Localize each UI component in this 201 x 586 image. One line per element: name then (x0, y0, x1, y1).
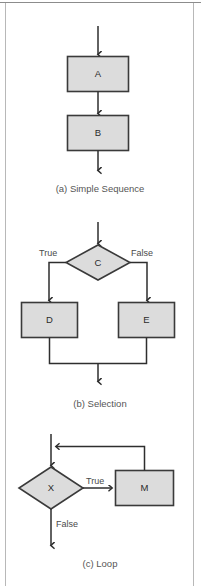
node-e-label: E (143, 314, 149, 325)
edge-label-false-selection: False (131, 248, 153, 258)
node-b-label: B (95, 127, 101, 138)
edge-label-true-selection: True (39, 248, 57, 258)
caption-simple-sequence: (a) Simple Sequence (56, 183, 145, 194)
flowchart-canvas: A B (a) Simple Sequence C True False D E… (0, 0, 201, 586)
node-a-label: A (95, 68, 102, 79)
edge-m-to-x-feedback (56, 447, 145, 471)
node-x-label: X (48, 482, 55, 493)
edge-c-to-d (49, 263, 66, 301)
edge-label-true-loop: True (86, 476, 104, 486)
caption-selection: (b) Selection (73, 398, 126, 409)
edge-merge-bar (50, 338, 147, 364)
panel-simple-sequence: A B (a) Simple Sequence (56, 26, 145, 194)
node-c-label: C (95, 257, 102, 268)
node-m-label: M (141, 482, 149, 493)
node-d-label: D (46, 314, 53, 325)
flowchart-figure: A B (a) Simple Sequence C True False D E… (0, 0, 201, 586)
edge-label-false-loop: False (56, 519, 78, 529)
panel-selection: C True False D E (b) Selection (22, 222, 175, 409)
edge-c-to-e (130, 263, 147, 301)
panel-loop: X True False M (c) Loop (19, 434, 174, 569)
caption-loop: (c) Loop (83, 558, 118, 569)
